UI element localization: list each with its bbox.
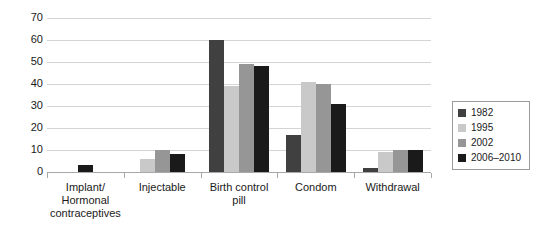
- x-axis-tick: [201, 173, 202, 178]
- plot-area: [47, 18, 431, 172]
- bar: [331, 104, 346, 172]
- bar: [209, 40, 224, 172]
- bar: [378, 152, 393, 172]
- x-axis-category-label: Birth controlpill: [201, 181, 278, 207]
- bar: [393, 150, 408, 172]
- x-axis-tick: [47, 173, 48, 178]
- bar: [408, 150, 423, 172]
- x-axis-tick: [277, 173, 278, 178]
- x-axis-category-label: Injectable: [124, 181, 201, 194]
- y-axis-tick-label: 60: [3, 34, 43, 45]
- bar-group: [124, 18, 201, 172]
- bar-group: [277, 18, 354, 172]
- bar: [301, 82, 316, 172]
- y-axis-tick-label: 20: [3, 122, 43, 133]
- legend-swatch-icon: [458, 154, 466, 162]
- bar: [155, 150, 170, 172]
- legend-item: 2006–2010: [458, 151, 525, 165]
- x-axis-line: [47, 172, 431, 173]
- bar: [170, 154, 185, 172]
- bar: [254, 66, 269, 172]
- y-axis: 010203040506070: [0, 0, 43, 235]
- y-axis-tick-label: 0: [3, 166, 43, 177]
- legend-item: 1995: [458, 121, 525, 135]
- x-axis-category-label-line: Condom: [277, 181, 354, 194]
- x-axis-category-label-line: Implant/: [47, 181, 124, 194]
- legend-item: 2002: [458, 136, 525, 150]
- legend-swatch-icon: [458, 124, 466, 132]
- legend-label: 2002: [471, 138, 493, 148]
- x-axis-category-label-line: pill: [201, 194, 278, 207]
- legend-label: 1982: [471, 108, 493, 118]
- x-axis-tick: [354, 173, 355, 178]
- bar: [224, 86, 239, 172]
- legend-swatch-icon: [458, 109, 466, 117]
- bar: [239, 64, 254, 172]
- x-axis-category-label-line: Birth control: [201, 181, 278, 194]
- y-axis-tick-label: 10: [3, 144, 43, 155]
- legend: 1982199520022006–2010: [452, 101, 530, 170]
- legend-item: 1982: [458, 106, 525, 120]
- x-axis-category-label-line: contraceptives: [47, 207, 124, 220]
- y-axis-tick-label: 50: [3, 56, 43, 67]
- bar-group: [354, 18, 431, 172]
- legend-label: 2006–2010: [471, 153, 521, 163]
- bar: [78, 165, 93, 172]
- x-axis-category-label: Condom: [277, 181, 354, 194]
- x-axis-tick: [431, 173, 432, 178]
- x-axis-category-label: Withdrawal: [354, 181, 431, 194]
- bar: [140, 159, 155, 172]
- legend-swatch-icon: [458, 139, 466, 147]
- bar-group: [201, 18, 278, 172]
- y-axis-tick-label: 30: [3, 100, 43, 111]
- legend-label: 1995: [471, 123, 493, 133]
- bar: [316, 84, 331, 172]
- bar-group: [47, 18, 124, 172]
- bar-chart: 010203040506070 Implant/Hormonalcontrace…: [0, 0, 541, 235]
- x-axis-tick: [124, 173, 125, 178]
- bar: [286, 135, 301, 172]
- y-axis-tick-label: 70: [3, 12, 43, 23]
- y-axis-tick-label: 40: [3, 78, 43, 89]
- x-axis-category-label-line: Hormonal: [47, 194, 124, 207]
- x-axis-category-label-line: Withdrawal: [354, 181, 431, 194]
- x-axis-category-label: Implant/Hormonalcontraceptives: [47, 181, 124, 220]
- x-axis-category-label-line: Injectable: [124, 181, 201, 194]
